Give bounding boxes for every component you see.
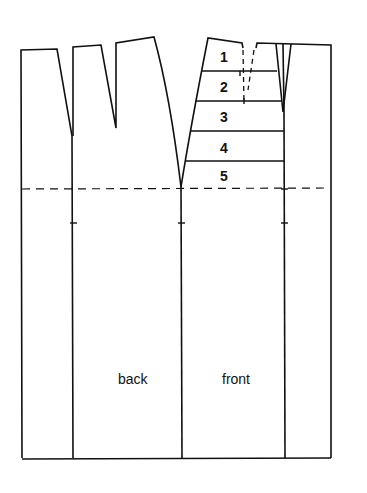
front-panel-label: front (222, 371, 250, 387)
front-panel-waistline (181, 38, 243, 187)
back-side-panel-outline (21, 49, 73, 458)
front-dart-center (283, 44, 284, 112)
section-label-1: 1 (220, 49, 228, 65)
side-seam-line (181, 187, 182, 458)
section-label-4: 4 (220, 140, 228, 156)
skirt-pattern-diagram: 1 2 3 4 5 back front (0, 0, 367, 493)
section-label-5: 5 (220, 168, 228, 184)
dashed-dart-left (243, 50, 244, 102)
section-label-3: 3 (220, 109, 228, 125)
front-waistline-right (256, 43, 331, 458)
hem-line (22, 458, 331, 459)
dashed-dart-right (248, 50, 254, 90)
section-label-2: 2 (220, 79, 228, 95)
front-panel-divider (284, 112, 285, 458)
back-panel-label: back (118, 371, 149, 387)
back-panel-waistline (73, 37, 181, 187)
